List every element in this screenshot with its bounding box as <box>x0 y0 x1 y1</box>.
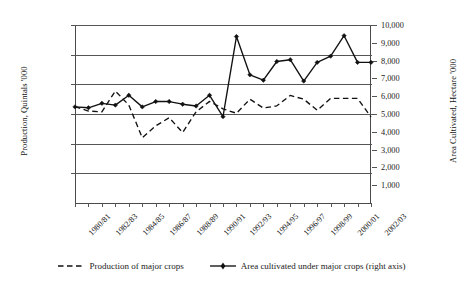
x-tick <box>115 203 116 207</box>
x-axis-tick-label: 2002/03 <box>383 212 408 237</box>
x-tick <box>290 203 291 207</box>
x-axis-tick-label: 1984/85 <box>141 212 166 237</box>
x-tick <box>236 203 237 207</box>
x-tick <box>344 203 345 207</box>
x-axis-tick-label: 1986/87 <box>168 212 193 237</box>
x-axis-tick-label: 1994/95 <box>275 212 300 237</box>
x-axis-tick-label: 1996/97 <box>302 212 327 237</box>
x-axis-tick-label: 1988/89 <box>194 212 219 237</box>
legend-dashed-line-icon <box>58 261 84 271</box>
x-tick <box>142 203 143 207</box>
x-tick <box>317 203 318 207</box>
x-tick <box>223 203 224 207</box>
x-tick <box>129 203 130 207</box>
x-tick <box>263 203 264 207</box>
x-tick <box>156 203 157 207</box>
x-tick <box>304 203 305 207</box>
x-tick <box>210 203 211 207</box>
x-tick <box>371 203 372 207</box>
x-tick <box>331 203 332 207</box>
x-axis-tick-label: 1998/99 <box>329 212 354 237</box>
x-axis-tick-label: 2000/01 <box>356 212 381 237</box>
x-axis-tick-label: 1980/81 <box>87 212 112 237</box>
x-tick <box>169 203 170 207</box>
x-tick <box>102 203 103 207</box>
chart-container: Production, Quintals '000 Area Cultivate… <box>0 0 464 286</box>
x-tick <box>183 203 184 207</box>
x-axis-tick-label: 1982/83 <box>114 212 139 237</box>
x-tick <box>358 203 359 207</box>
legend-label-production: Production of major crops <box>89 261 183 271</box>
chart-legend: Production of major crops Area cultivate… <box>0 256 464 276</box>
legend-label-area: Area cultivated under major crops (right… <box>241 261 406 271</box>
legend-solid-line-marker-icon <box>210 261 236 271</box>
x-tick <box>88 203 89 207</box>
x-tick <box>250 203 251 207</box>
x-axis-labels: 1980/811982/831984/851986/871988/891990/… <box>0 0 464 286</box>
x-axis-tick-label: 1990/91 <box>221 212 246 237</box>
x-tick <box>196 203 197 207</box>
legend-item-area: Area cultivated under major crops (right… <box>210 261 406 271</box>
x-tick <box>277 203 278 207</box>
x-tick <box>75 203 76 207</box>
legend-item-production: Production of major crops <box>58 261 183 271</box>
x-axis-tick-label: 1992/93 <box>248 212 273 237</box>
